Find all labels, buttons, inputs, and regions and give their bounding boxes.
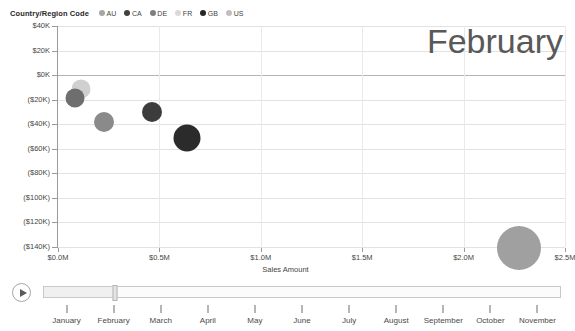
x-tick-label: $2.0M — [453, 253, 474, 262]
y-tick-label: ($60K) — [0, 144, 50, 153]
month-tick[interactable] — [396, 305, 397, 313]
y-tick-mark — [52, 149, 57, 150]
gridline-vertical — [464, 26, 465, 247]
y-tick-mark — [52, 247, 57, 248]
gridline-horizontal — [58, 100, 565, 101]
month-label-october[interactable]: October — [476, 316, 504, 325]
legend-item-de[interactable]: DE — [150, 10, 167, 17]
y-tick-label: ($140K) — [0, 242, 50, 251]
bubble-de[interactable] — [66, 89, 85, 108]
bubble-gb[interactable] — [173, 124, 200, 151]
legend-item-gb[interactable]: GB — [200, 10, 218, 17]
gridline-horizontal — [58, 124, 565, 125]
y-tick-mark — [52, 173, 57, 174]
y-tick-mark — [52, 75, 57, 76]
timeline-slider-handle[interactable] — [112, 285, 117, 301]
gridline-vertical — [261, 26, 262, 247]
legend-label-fr: FR — [183, 10, 193, 17]
month-label-august[interactable]: August — [384, 316, 409, 325]
month-tick[interactable] — [254, 305, 255, 313]
gridline-horizontal — [58, 198, 565, 199]
y-tick-mark — [52, 51, 57, 52]
x-tick-mark — [464, 248, 465, 252]
legend-swatch-de — [150, 10, 156, 16]
month-label-march[interactable]: March — [150, 316, 172, 325]
x-tick-mark — [261, 248, 262, 252]
x-tick-mark — [565, 248, 566, 252]
y-tick-mark — [52, 198, 57, 199]
timeline-slider-fill — [44, 287, 115, 297]
plot-background — [58, 26, 565, 247]
legend-swatch-ca — [124, 10, 130, 16]
legend-label-gb: GB — [208, 10, 218, 17]
gridline-horizontal — [58, 149, 565, 150]
month-label-january[interactable]: January — [52, 316, 80, 325]
month-label-may[interactable]: May — [247, 316, 262, 325]
y-tick-mark — [52, 124, 57, 125]
x-axis-title: Sales Amount — [0, 265, 571, 274]
gridline-horizontal — [58, 222, 565, 223]
scatter-plot[interactable] — [58, 26, 565, 247]
y-tick-label: ($80K) — [0, 168, 50, 177]
bubble-ca[interactable] — [142, 102, 162, 122]
gridline-vertical — [565, 26, 566, 247]
month-tick[interactable] — [443, 305, 444, 313]
gridline-horizontal — [58, 26, 565, 27]
y-tick-label: ($20K) — [0, 95, 50, 104]
gridline-vertical — [159, 26, 160, 247]
y-tick-label: $0K — [0, 70, 50, 79]
month-tick[interactable] — [160, 305, 161, 313]
month-tick[interactable] — [66, 305, 67, 313]
month-tick[interactable] — [490, 305, 491, 313]
month-label-november[interactable]: November — [519, 316, 556, 325]
timeline-control[interactable]: JanuaryFebruaryMarchAprilMayJuneJulyAugu… — [0, 279, 571, 331]
month-label-september[interactable]: September — [424, 316, 463, 325]
y-tick-label: $40K — [0, 21, 50, 30]
month-label-july[interactable]: July — [342, 316, 356, 325]
bubble-au[interactable] — [94, 112, 114, 132]
legend-item-us[interactable]: US — [226, 10, 243, 17]
gridline-horizontal — [58, 173, 565, 174]
legend-item-fr[interactable]: FR — [175, 10, 192, 17]
x-tick-mark — [159, 248, 160, 252]
gridline-horizontal — [58, 75, 565, 76]
legend-swatch-us — [226, 10, 232, 16]
month-tick[interactable] — [302, 305, 303, 313]
y-tick-label: ($120K) — [0, 217, 50, 226]
play-button[interactable] — [12, 283, 31, 302]
month-label-june[interactable]: June — [293, 316, 310, 325]
legend-swatch-fr — [175, 10, 181, 16]
y-tick-label: ($100K) — [0, 193, 50, 202]
month-tick[interactable] — [349, 305, 350, 313]
x-tick-label: $2.5M — [555, 253, 575, 262]
month-tick[interactable] — [207, 305, 208, 313]
y-tick-mark — [52, 100, 57, 101]
bubble-us[interactable] — [497, 226, 541, 270]
y-tick-label: $20K — [0, 46, 50, 55]
legend-swatch-au — [99, 10, 105, 16]
x-tick-mark — [58, 248, 59, 252]
month-label-february[interactable]: February — [98, 316, 130, 325]
play-icon — [20, 289, 27, 297]
x-tick-label: $0.5M — [149, 253, 170, 262]
legend: Country/Region Code AU CA DE FR GB US — [10, 6, 247, 20]
legend-label-us: US — [234, 10, 244, 17]
legend-label-au: AU — [106, 10, 116, 17]
x-tick-mark — [362, 248, 363, 252]
legend-swatch-gb — [200, 10, 206, 16]
y-tick-mark — [52, 26, 57, 27]
legend-item-au[interactable]: AU — [99, 10, 116, 17]
timeline-slider-track[interactable] — [43, 286, 561, 298]
gridline-horizontal — [58, 247, 565, 248]
x-tick-label: $1.5M — [352, 253, 373, 262]
x-tick-label: $0.0M — [48, 253, 69, 262]
month-tick[interactable] — [113, 305, 114, 313]
legend-label-ca: CA — [132, 10, 142, 17]
month-tick[interactable] — [537, 305, 538, 313]
legend-label-de: DE — [157, 10, 167, 17]
month-label-april[interactable]: April — [200, 316, 216, 325]
x-tick-label: $1.0M — [250, 253, 271, 262]
gridline-vertical — [362, 26, 363, 247]
legend-item-ca[interactable]: CA — [124, 10, 141, 17]
gridline-horizontal — [58, 51, 565, 52]
